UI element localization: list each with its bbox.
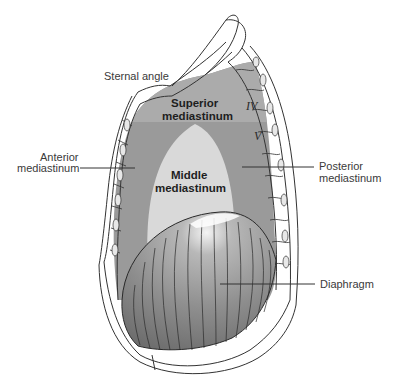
anterior-mediastinum-label-2: mediastinum [17, 162, 79, 174]
middle-mediastinum-label-1: Middle [171, 169, 207, 181]
diaphragm-label: Diaphragm [320, 278, 374, 290]
vertebra-iv-label: IV [245, 99, 259, 113]
superior-mediastinum-label-1: Superior [171, 97, 219, 109]
mediastinum-diagram: IV V Superior mediastinum Middle [0, 0, 395, 390]
middle-mediastinum-label-2: mediastinum [155, 182, 226, 194]
posterior-mediastinum-label-1: Posterior [319, 160, 363, 172]
superior-mediastinum-label-2: mediastinum [162, 110, 233, 122]
posterior-mediastinum-label-2: mediastinum [319, 172, 381, 184]
sternal-angle-label: Sternal angle [104, 70, 169, 82]
